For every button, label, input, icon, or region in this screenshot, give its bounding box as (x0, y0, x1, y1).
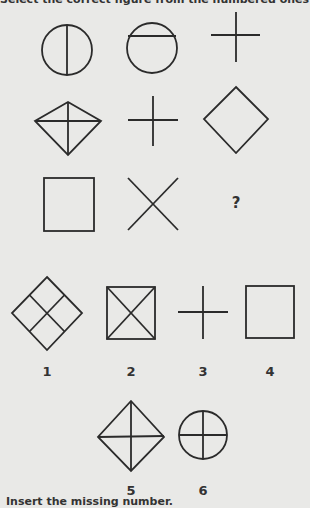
cross-icon (211, 12, 260, 62)
option-3-cross-icon[interactable] (178, 286, 228, 339)
circle-vertical-line-icon (42, 25, 92, 75)
diamond-icon (204, 87, 268, 153)
option-4-label: 4 (260, 364, 280, 379)
diamond-with-cross-icon (35, 102, 101, 155)
option-5-diamond-with-cross-icon[interactable] (98, 401, 164, 471)
option-2-label: 2 (121, 364, 141, 379)
option-6-circle-with-cross-icon[interactable] (179, 411, 227, 459)
option-6-label: 6 (193, 483, 213, 498)
x-shape-icon (128, 178, 178, 230)
circle-horizontal-line-icon (127, 23, 177, 73)
option-3-label: 3 (193, 364, 213, 379)
option-1-label: 1 (37, 364, 57, 379)
option-2-square-x-icon[interactable] (107, 287, 155, 339)
instruction-bottom: Insert the missing number. (6, 495, 173, 508)
missing-figure-marker: ? (228, 194, 244, 212)
square-icon (44, 178, 94, 231)
option-4-square-icon[interactable] (246, 286, 294, 338)
cross-icon (128, 96, 178, 146)
option-1-diamond-grid-icon[interactable] (12, 277, 82, 350)
